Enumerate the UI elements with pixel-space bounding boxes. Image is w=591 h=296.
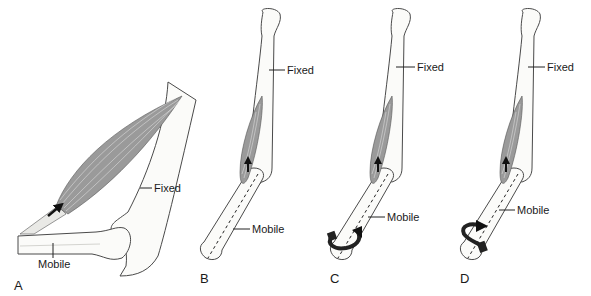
mobile-bone [460,168,523,260]
fixed-label: Fixed [287,64,314,76]
panel-label-b: B [200,271,209,286]
panel-label-c: C [330,271,339,286]
mobile-bone [200,168,263,260]
panel-label-d: D [460,271,469,286]
panel-label-a: A [14,278,23,293]
mobile-label: Mobile [38,258,70,270]
mobile-label: Mobile [517,204,549,216]
panel-b: Fixed Mobile B [200,9,314,287]
fixed-label: Fixed [417,61,444,73]
fixed-label: Fixed [547,61,574,73]
mobile-label: Mobile [387,211,419,223]
tendon [20,206,66,234]
panel-c: Fixed Mobile C [327,9,444,287]
muscle-action-diagram: Fixed Mobile A Fixed Mobile B Fixed [0,0,591,296]
fixed-label: Fixed [154,182,181,194]
panel-d: Fixed Mobile D [460,9,574,287]
mobile-label: Mobile [252,223,284,235]
mobile-bone [330,168,393,260]
panel-a: Fixed Mobile A [14,82,196,293]
